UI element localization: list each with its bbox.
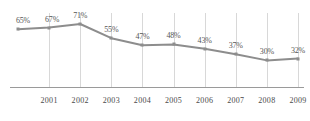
data-label: 55%	[104, 25, 118, 34]
data-point-marker	[203, 47, 206, 50]
data-label: 65%	[16, 16, 30, 25]
x-axis-tick-label: 2008	[258, 96, 275, 105]
data-point-marker	[48, 26, 51, 29]
x-axis-tick-label: 2007	[227, 96, 244, 105]
x-axis-tick-label: 2006	[196, 96, 213, 105]
plot-area: 65%67%71%55%47%48%43%37%30%32%2001200220…	[0, 0, 310, 121]
data-point-marker	[17, 28, 20, 31]
data-label: 30%	[260, 47, 274, 56]
data-label: 37%	[229, 41, 243, 50]
data-label: 47%	[135, 32, 149, 41]
data-point-marker	[110, 37, 113, 40]
x-axis-tick-label: 2005	[165, 96, 182, 105]
data-label: 67%	[45, 15, 59, 24]
x-axis-tick-label: 2004	[134, 96, 151, 105]
data-label: 43%	[198, 36, 212, 45]
data-point-marker	[141, 44, 144, 47]
data-label: 48%	[167, 31, 181, 40]
data-point-marker	[265, 59, 268, 62]
x-axis-tick-label: 2003	[103, 96, 120, 105]
data-label: 71%	[73, 11, 87, 20]
line-chart: 65%67%71%55%47%48%43%37%30%32%2001200220…	[0, 0, 310, 121]
x-axis-tick-label: 2001	[41, 96, 58, 105]
x-axis-tick-label: 2009	[289, 96, 306, 105]
x-axis-tick-label: 2002	[72, 96, 89, 105]
data-point-marker	[297, 57, 300, 60]
data-point-marker	[234, 53, 237, 56]
data-point-marker	[79, 22, 82, 25]
data-point-marker	[172, 43, 175, 46]
series-polyline	[18, 24, 298, 60]
data-label: 32%	[291, 46, 305, 55]
